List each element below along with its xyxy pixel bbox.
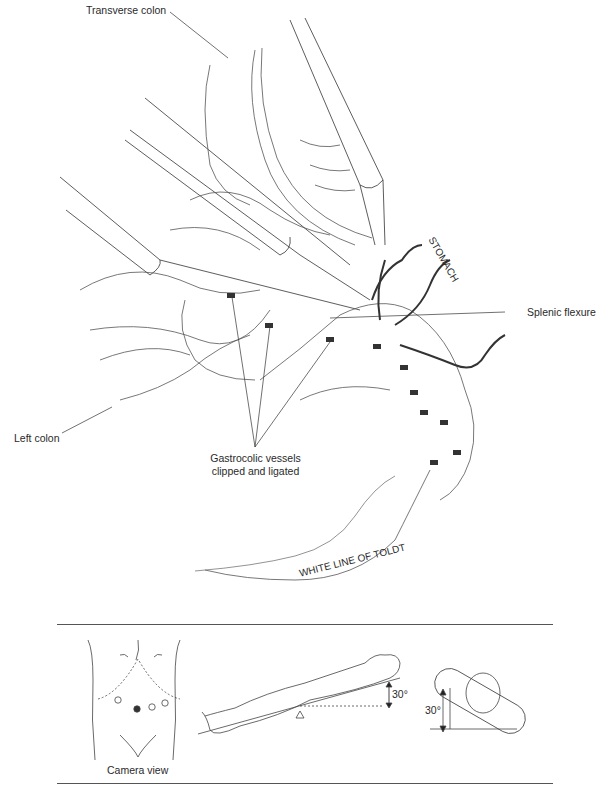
port-2 xyxy=(134,706,140,712)
positioning-diagrams xyxy=(0,0,611,792)
tilted-patient-side-view xyxy=(198,655,400,734)
camera-view-torso xyxy=(88,640,180,760)
port-1 xyxy=(115,697,121,703)
tilted-patient-end-view xyxy=(429,663,531,739)
camera-view-caption: Camera view xyxy=(107,764,168,777)
angle-label-end: 30° xyxy=(425,704,441,717)
port-4 xyxy=(162,700,168,706)
angle-label-side: 30° xyxy=(392,688,408,701)
port-3 xyxy=(149,704,155,710)
